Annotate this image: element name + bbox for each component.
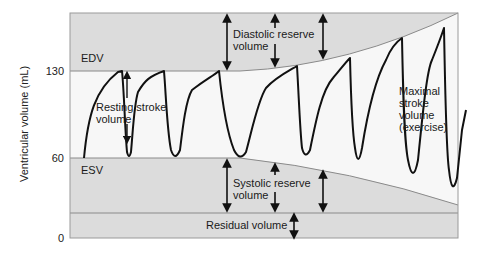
diastolic-reserve-label-line1: Diastolic reserve [233,28,314,40]
edv-label: EDV [81,52,104,64]
resting-stroke-volume-label-line1: Resting stroke [96,101,166,113]
y-tick-130: 130 [34,65,64,77]
y-axis-label: Ventricular volume (mL) [18,66,30,182]
systolic-reserve-label-line2: volume [233,189,268,201]
maximal-stroke-volume-label-line4: (exercise) [399,121,447,133]
y-tick-60: 60 [34,152,64,164]
maximal-stroke-volume-label-line3: volume [399,109,434,121]
maximal-stroke-volume-label-line1: Maximal [399,85,440,97]
y-tick-0: 0 [34,232,64,244]
esv-label: ESV [81,164,103,176]
maximal-stroke-volume-label-line2: stroke [399,97,429,109]
residual-volume-label: Residual volume [206,219,287,231]
resting-stroke-volume-label-line2: volume [96,113,131,125]
diastolic-reserve-label-line2: volume [233,40,268,52]
systolic-reserve-label-line1: Systolic reserve [233,177,311,189]
